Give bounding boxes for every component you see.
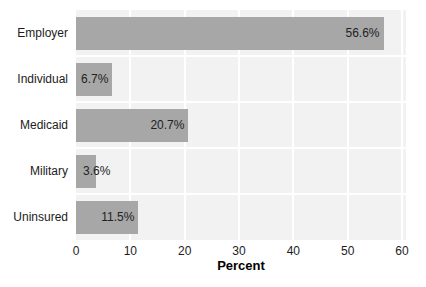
health-coverage-bar-chart: Employer Individual Medicaid Military Un… — [0, 0, 426, 287]
category-label-military: Military — [0, 155, 68, 188]
plot-area: 56.6% 6.7% 20.7% 3.6% 11.5% — [76, 10, 406, 240]
x-tick-label: 60 — [387, 244, 417, 258]
bar-medicaid: 20.7% — [76, 109, 188, 142]
category-label-individual: Individual — [0, 63, 68, 96]
category-label-uninsured: Uninsured — [0, 201, 68, 234]
x-tick-label: 50 — [333, 244, 363, 258]
bar-value-label: 6.7% — [81, 63, 108, 96]
bar-value-label: 3.6% — [83, 155, 110, 188]
bar-uninsured: 11.5% — [76, 201, 138, 234]
gridline-horizontal — [76, 193, 406, 195]
bar-value-label: 20.7% — [150, 109, 184, 142]
bar-employer: 56.6% — [76, 17, 384, 50]
x-tick-label: 20 — [170, 244, 200, 258]
x-tick-label: 40 — [278, 244, 308, 258]
gridline-horizontal — [76, 101, 406, 103]
gridline-vertical — [401, 10, 403, 240]
category-label-employer: Employer — [0, 17, 68, 50]
bar-value-label: 11.5% — [101, 201, 134, 234]
category-label-medicaid: Medicaid — [0, 109, 68, 142]
gridline-horizontal — [76, 147, 406, 149]
x-tick-label: 10 — [115, 244, 145, 258]
x-tick-label: 0 — [61, 244, 91, 258]
bar-value-label: 56.6% — [345, 17, 379, 50]
bar-individual: 6.7% — [76, 63, 112, 96]
x-tick-label: 30 — [224, 244, 254, 258]
gridline-horizontal — [76, 55, 406, 57]
bar-military: 3.6% — [76, 155, 96, 188]
x-axis-title: Percent — [76, 258, 406, 273]
